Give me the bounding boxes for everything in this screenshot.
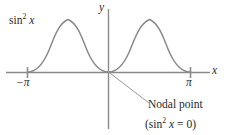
curve-label: sin2 x — [9, 13, 34, 26]
annotation-nodal-formula: (sin2 x = 0) — [145, 117, 196, 130]
curve-label-function: sin — [9, 14, 22, 26]
annotation-formula-open: (sin — [145, 118, 162, 130]
tick-label-negative-pi: −π — [16, 77, 30, 89]
y-axis-label: y — [99, 2, 104, 14]
tick-label-positive-pi: π — [186, 77, 192, 89]
x-axis-label: x — [212, 65, 217, 77]
annotation-formula-tail: = 0) — [177, 118, 196, 130]
curve-label-variable: x — [29, 14, 34, 26]
sin-squared-figure: sin2 x y x −π π Nodal point (sin2 x = 0) — [0, 0, 227, 135]
annotation-nodal-point: Nodal point — [148, 99, 203, 111]
annotation-leader-line — [109, 72, 150, 103]
